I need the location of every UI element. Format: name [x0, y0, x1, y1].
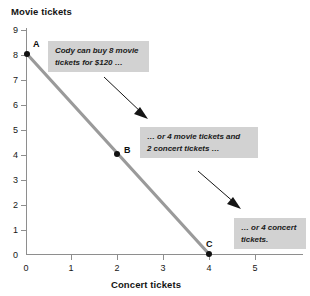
y-tick-label-6: 6 — [7, 100, 18, 110]
annotation-arrow-b — [198, 171, 241, 209]
x-axis-title: Concert tickets — [111, 279, 181, 290]
x-tick-mark — [71, 255, 72, 260]
data-point-b — [114, 151, 120, 157]
data-point-c — [206, 251, 212, 257]
y-tick-mark — [21, 205, 26, 206]
x-tick-label-0: 0 — [19, 263, 33, 273]
x-tick-label-5: 5 — [248, 263, 262, 273]
callout-a: Cody can buy 8 movie tickets for $120 … — [48, 41, 149, 72]
callout-c-line-2: tickets. — [241, 234, 300, 246]
y-tick-label-3: 3 — [7, 175, 18, 185]
x-tick-mark — [117, 255, 118, 260]
x-tick-mark — [163, 255, 164, 260]
y-tick-mark — [21, 230, 26, 231]
y-tick-mark — [21, 130, 26, 131]
data-point-label-a: A — [33, 39, 40, 49]
callout-a-line-1: Cody can buy 8 movie — [55, 45, 143, 57]
x-tick-label-2: 2 — [110, 263, 124, 273]
callout-b: … or 4 movie tickets and 2 concert ticke… — [140, 127, 258, 158]
callout-c-line-1: … or 4 concert — [241, 222, 300, 234]
y-tick-mark — [21, 30, 26, 31]
x-tick-label-3: 3 — [156, 263, 170, 273]
callout-c: … or 4 concert tickets. — [234, 218, 306, 249]
x-tick-label-4: 4 — [202, 263, 216, 273]
y-tick-label-2: 2 — [7, 200, 18, 210]
data-point-label-c: C — [206, 239, 213, 249]
y-tick-mark — [21, 105, 26, 106]
y-tick-label-8: 8 — [7, 50, 18, 60]
y-tick-label-1: 1 — [7, 225, 18, 235]
y-tick-label-0: 0 — [7, 250, 18, 260]
y-tick-mark — [21, 80, 26, 81]
y-tick-label-5: 5 — [7, 125, 18, 135]
y-axis-title: Movie tickets — [11, 6, 72, 17]
callout-b-line-1: … or 4 movie tickets and — [147, 131, 252, 143]
annotation-arrow-a — [104, 77, 148, 119]
data-point-label-b: B — [124, 145, 131, 155]
y-tick-label-4: 4 — [7, 150, 18, 160]
y-tick-mark — [21, 155, 26, 156]
callout-b-line-2: 2 concert tickets … — [147, 143, 252, 155]
x-axis-line — [26, 254, 303, 255]
y-tick-label-9: 9 — [7, 25, 18, 35]
y-tick-label-7: 7 — [7, 75, 18, 85]
data-point-a — [24, 51, 30, 57]
callout-a-line-2: tickets for $120 … — [55, 57, 143, 69]
x-tick-mark — [255, 255, 256, 260]
x-tick-label-1: 1 — [64, 263, 78, 273]
budget-constraint-chart: Movie tickets Concert tickets 9 8 7 6 5 … — [0, 0, 310, 296]
y-axis-line — [26, 28, 27, 255]
y-tick-mark — [21, 180, 26, 181]
